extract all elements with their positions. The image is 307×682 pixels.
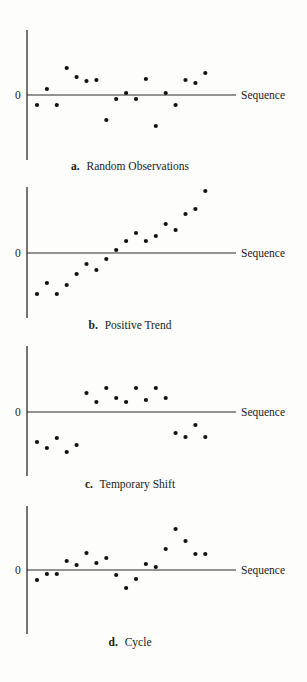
- data-point: [114, 248, 118, 252]
- data-point: [144, 239, 148, 243]
- zero-label: 0: [15, 406, 21, 418]
- data-point: [55, 436, 59, 440]
- data-point: [164, 91, 168, 95]
- data-point: [154, 565, 158, 569]
- data-point: [45, 572, 49, 576]
- data-point: [84, 262, 88, 266]
- caption-letter: a.: [71, 160, 80, 172]
- caption-title: Temporary Shift: [100, 478, 176, 491]
- panel-caption: c. Temporary Shift: [85, 478, 176, 491]
- data-point: [55, 572, 59, 576]
- data-point: [134, 386, 138, 390]
- sequence-axis-label: Sequence: [241, 406, 285, 419]
- data-point: [75, 563, 79, 567]
- data-point: [55, 292, 59, 296]
- caption-title: Random Observations: [86, 160, 189, 172]
- data-point: [65, 283, 69, 287]
- data-point: [174, 431, 178, 435]
- caption-letter: d.: [109, 636, 118, 648]
- caption-title: Positive Trend: [105, 319, 172, 331]
- data-point: [174, 228, 178, 232]
- data-point: [35, 103, 39, 107]
- data-points: [35, 66, 208, 128]
- data-point: [124, 91, 128, 95]
- data-point: [164, 547, 168, 551]
- data-point: [193, 207, 197, 211]
- data-point: [124, 239, 128, 243]
- data-point: [134, 97, 138, 101]
- data-point: [104, 257, 108, 261]
- sequence-axis-label: Sequence: [241, 564, 285, 577]
- caption-title: Cycle: [125, 636, 152, 649]
- data-point: [183, 212, 187, 216]
- data-point: [183, 78, 187, 82]
- data-point: [94, 78, 98, 82]
- data-points: [35, 189, 208, 296]
- data-point: [114, 396, 118, 400]
- data-points: [35, 527, 208, 590]
- panel-caption: a. Random Observations: [71, 160, 190, 172]
- sequence-axis-label: Sequence: [241, 89, 285, 102]
- data-point: [45, 87, 49, 91]
- data-point: [193, 423, 197, 427]
- data-point: [104, 386, 108, 390]
- data-point: [193, 81, 197, 85]
- zero-label: 0: [15, 89, 21, 101]
- data-point: [114, 573, 118, 577]
- data-point: [84, 79, 88, 83]
- data-point: [104, 556, 108, 560]
- caption-letter: b.: [89, 319, 98, 331]
- data-point: [203, 189, 207, 193]
- sequence-axis-label: Sequence: [241, 247, 285, 260]
- data-point: [94, 268, 98, 272]
- data-point: [154, 124, 158, 128]
- data-point: [75, 443, 79, 447]
- data-point: [114, 97, 118, 101]
- data-point: [134, 231, 138, 235]
- panel-a-random-observations: 0 Sequence a. Random Observations: [15, 30, 285, 172]
- data-point: [193, 552, 197, 556]
- data-point: [154, 234, 158, 238]
- data-point: [35, 578, 39, 582]
- data-points: [35, 386, 208, 454]
- panel-d-cycle: 0 Sequence d. Cycle: [15, 506, 285, 649]
- data-point: [144, 562, 148, 566]
- zero-label: 0: [15, 564, 21, 576]
- zero-label: 0: [15, 247, 21, 259]
- data-point: [35, 292, 39, 296]
- data-point: [144, 77, 148, 81]
- data-point: [45, 446, 49, 450]
- data-point: [164, 222, 168, 226]
- data-point: [65, 450, 69, 454]
- data-point: [203, 435, 207, 439]
- data-point: [45, 281, 49, 285]
- data-point: [124, 400, 128, 404]
- caption-letter: c.: [85, 478, 93, 490]
- data-point: [144, 398, 148, 402]
- data-point: [75, 272, 79, 276]
- data-point: [154, 386, 158, 390]
- control-pattern-figure: 0 Sequence a. Random Observations 0 Sequ…: [0, 0, 307, 682]
- panel-c-temporary-shift: 0 Sequence c. Temporary Shift: [15, 346, 285, 491]
- panel-b-positive-trend: 0 Sequence b. Positive Trend: [15, 187, 285, 331]
- panel-caption: d. Cycle: [109, 636, 152, 649]
- data-point: [94, 561, 98, 565]
- data-point: [124, 586, 128, 590]
- data-point: [203, 552, 207, 556]
- data-point: [35, 440, 39, 444]
- data-point: [203, 71, 207, 75]
- data-point: [84, 391, 88, 395]
- data-point: [174, 527, 178, 531]
- data-point: [65, 66, 69, 70]
- data-point: [134, 577, 138, 581]
- data-point: [55, 103, 59, 107]
- panel-caption: b. Positive Trend: [89, 319, 172, 331]
- data-point: [104, 118, 108, 122]
- data-point: [65, 559, 69, 563]
- data-point: [75, 75, 79, 79]
- data-point: [183, 435, 187, 439]
- data-point: [183, 539, 187, 543]
- data-point: [84, 551, 88, 555]
- data-point: [174, 103, 178, 107]
- data-point: [94, 400, 98, 404]
